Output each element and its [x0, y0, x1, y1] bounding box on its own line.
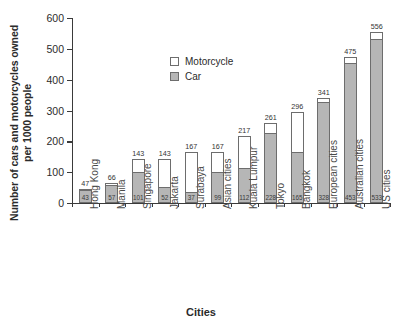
x-category-label-australian-cities: Australian cities: [354, 139, 365, 209]
bar-total-label: 475: [344, 47, 356, 56]
x-category-label-kuala-lumpur: Kuala Lumpur: [248, 147, 259, 209]
x-tick-0: [72, 203, 73, 207]
x-axis-title: Cities: [0, 306, 402, 318]
y-tick-500: [67, 49, 72, 50]
y-tick-300: [67, 111, 72, 112]
y-tick-label-400: 400: [46, 74, 64, 86]
bar-total-label: 341: [318, 88, 330, 97]
y-axis-line: [72, 18, 73, 203]
x-category-label-european-cities: European cities: [328, 140, 339, 209]
y-tick-600: [67, 18, 72, 19]
y-tick-100: [67, 172, 72, 173]
legend-item-motorcycle: Motorcycle: [170, 56, 233, 67]
y-tick-400: [67, 80, 72, 81]
bar-segment-motorcycle: [264, 123, 277, 133]
bar-car-label: 43: [82, 194, 89, 201]
legend-label-motorcycle: Motorcycle: [185, 56, 233, 67]
bar-car-label: 52: [161, 194, 168, 201]
legend-label-car: Car: [185, 71, 201, 82]
y-tick-label-100: 100: [46, 166, 64, 178]
x-category-label-tokyo: Tokyo: [275, 183, 286, 209]
bar-car-label: 57: [108, 194, 115, 201]
bar-total-label: 261: [265, 113, 277, 122]
x-category-label-manila: Manila: [116, 180, 127, 209]
chart-legend: Motorcycle Car: [170, 56, 233, 86]
y-tick-200: [67, 141, 72, 142]
bar-total-label: 556: [371, 22, 383, 31]
x-category-label-us-cities: US cities: [381, 170, 392, 209]
bar-total-label: 217: [238, 126, 250, 135]
bar-total-label: 167: [185, 142, 197, 151]
x-category-label-hong-kong: Hong Kong: [89, 159, 100, 209]
bar-segment-motorcycle: [370, 32, 383, 39]
bar-segment-motorcycle: [291, 112, 304, 152]
y-tick-label-0: 0: [58, 197, 64, 209]
bar-car-label: 99: [214, 194, 221, 201]
x-category-label-asian-cities: Asian cities: [222, 158, 233, 209]
bar-total-label: 143: [132, 149, 144, 158]
x-category-label-surabaya: Surabaya: [195, 166, 206, 209]
bar-segment-motorcycle: [344, 57, 357, 64]
legend-item-car: Car: [170, 71, 233, 82]
bar-total-label: 66: [108, 173, 116, 182]
y-tick-label-500: 500: [46, 43, 64, 55]
legend-swatch-motorcycle-icon: [170, 57, 179, 66]
x-category-label-bangkok: Bangkok: [301, 170, 312, 209]
y-tick-label-300: 300: [46, 105, 64, 117]
bar-car-label: 37: [188, 194, 195, 201]
y-axis-title: Number of cars and motorcycles owned per…: [4, 24, 38, 222]
legend-swatch-car-icon: [170, 72, 179, 81]
y-tick-label-200: 200: [46, 135, 64, 147]
stacked-bar-chart: Number of cars and motorcycles owned per…: [0, 0, 402, 335]
x-category-label-singapore: Singapore: [142, 163, 153, 209]
bar-total-label: 143: [159, 149, 171, 158]
x-category-label-jakarta: Jakarta: [169, 176, 180, 209]
bar-total-label: 167: [212, 142, 224, 151]
bar-total-label: 296: [291, 102, 303, 111]
y-tick-label-600: 600: [46, 12, 64, 24]
